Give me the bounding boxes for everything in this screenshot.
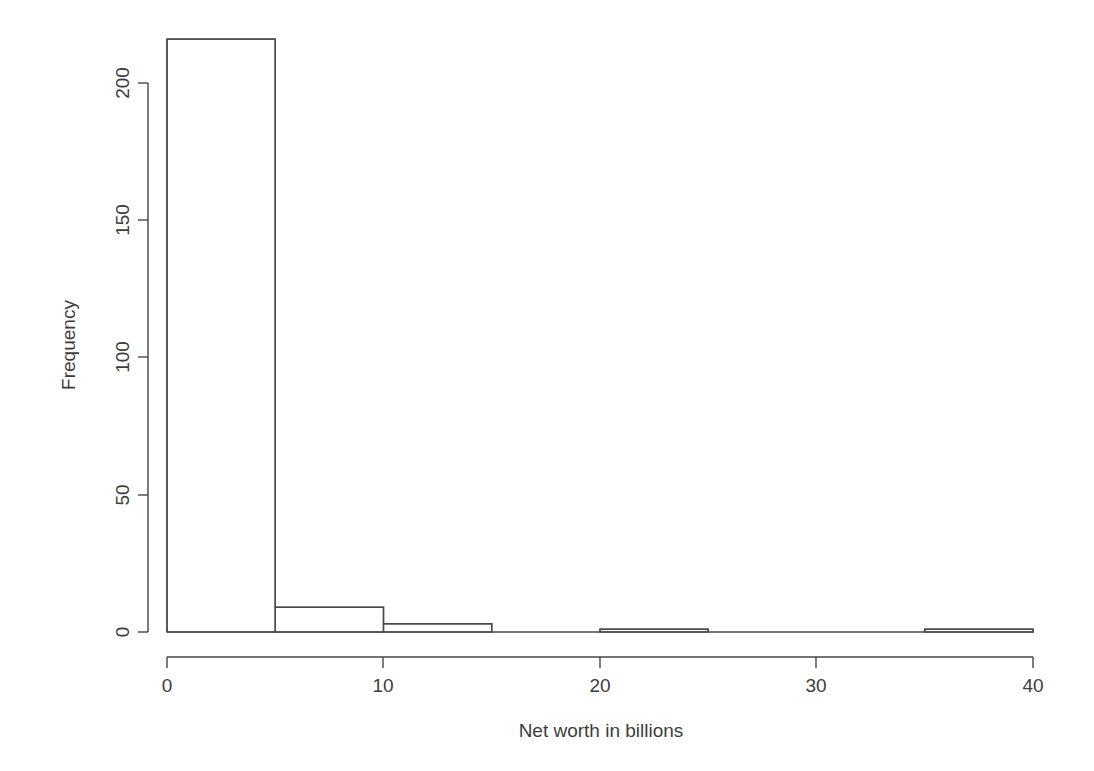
y-tick-label-100: 100 — [112, 341, 133, 373]
x-tick-label-20: 20 — [589, 675, 610, 696]
y-tick-label-0: 0 — [112, 627, 133, 638]
plot-canvas: 200 150 100 50 0 Frequency 0 10 20 30 40… — [0, 0, 1094, 771]
histogram-bar — [384, 624, 492, 632]
histogram-bars — [167, 39, 1033, 632]
y-axis: 200 150 100 50 0 Frequency — [58, 67, 148, 637]
y-tick-label-200: 200 — [112, 67, 133, 99]
y-tick-label-50: 50 — [112, 484, 133, 505]
x-axis: 0 10 20 30 40 Net worth in billions — [162, 657, 1044, 741]
histogram-figure: 200 150 100 50 0 Frequency 0 10 20 30 40… — [0, 0, 1094, 771]
histogram-bar — [600, 629, 708, 632]
x-tick-label-0: 0 — [162, 675, 173, 696]
histogram-bar — [275, 607, 383, 632]
y-axis-title: Frequency — [58, 300, 79, 390]
y-tick-label-150: 150 — [112, 204, 133, 236]
x-axis-title: Net worth in billions — [519, 720, 684, 741]
histogram-bar — [925, 629, 1033, 632]
x-tick-label-30: 30 — [805, 675, 826, 696]
x-tick-label-10: 10 — [372, 675, 393, 696]
histogram-bar — [167, 39, 275, 632]
x-tick-label-40: 40 — [1022, 675, 1043, 696]
histogram-outline — [167, 39, 1033, 632]
